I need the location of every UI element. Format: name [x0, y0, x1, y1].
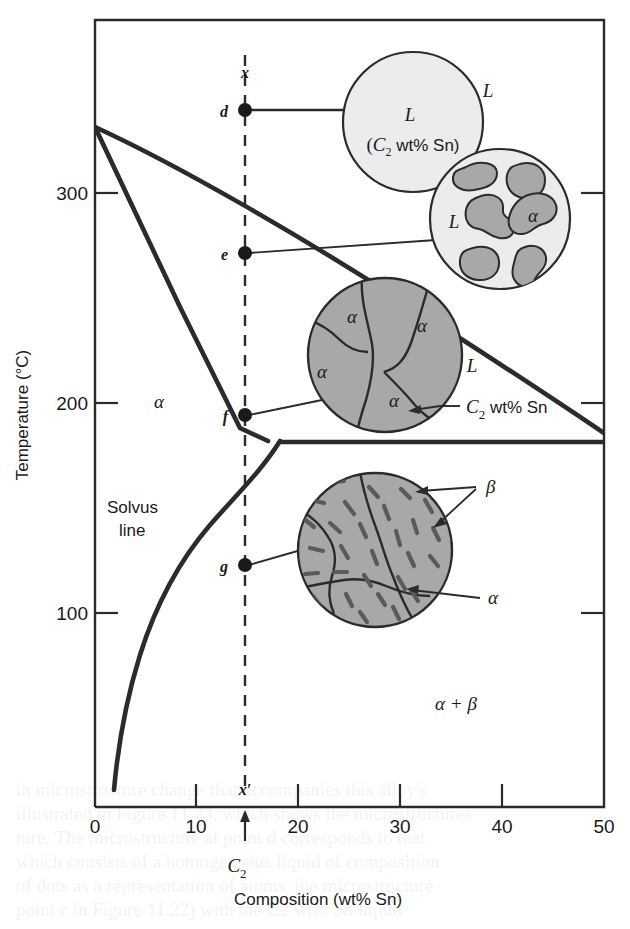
liq-comp-close: ): [454, 136, 460, 155]
alpha-grains-micrograph: α α α α: [303, 276, 462, 440]
y-tick-label-200: 200: [56, 393, 88, 414]
la-micrograph-label-L: L: [448, 211, 460, 232]
phase-diagram-svg: in microstructure change that accompanie…: [0, 0, 630, 929]
region-label-alpha: α: [154, 391, 165, 412]
state-point-e-dot: [238, 246, 252, 260]
x-tick-label-20: 20: [287, 816, 308, 837]
la-micrograph-label-alpha: α: [528, 205, 539, 226]
bleed-line-3: ture. The microstructure at point d corr…: [16, 827, 426, 848]
alpha-micrograph-label-3: α: [317, 361, 328, 382]
state-point-d-label: d: [220, 103, 229, 120]
liq-comp-C: C: [373, 134, 386, 155]
y-axis-tick-labels: 300 200 100: [56, 183, 88, 624]
alpha-plus-beta-micrograph: [298, 472, 452, 627]
c2-callout-tail: wt% Sn: [485, 398, 547, 417]
x-tick-label-0: 0: [90, 816, 101, 837]
c2-callout-text: C2 wt% Sn: [466, 396, 548, 422]
vertical-line-bottom-label: x′: [238, 781, 252, 798]
c2-callout-C: C: [466, 396, 479, 417]
c2-label-sub: 2: [240, 866, 247, 881]
alpha-callout-label: α: [488, 587, 499, 608]
state-point-g-dot: [238, 558, 252, 572]
leader-line-f: [249, 400, 322, 415]
x-tick-label-50: 50: [593, 816, 614, 837]
vertical-line-top-label: x: [240, 64, 249, 81]
solvus-curve: [114, 441, 280, 790]
x-tick-label-40: 40: [491, 816, 512, 837]
region-label-alpha-plus-beta: α + β: [435, 693, 477, 714]
y-tick-label-300: 300: [56, 183, 88, 204]
liquid-plus-alpha-micrograph: L α: [430, 149, 570, 289]
solidus-curve: [95, 127, 268, 441]
y-axis-title: Temperature (°C): [13, 350, 32, 481]
phase-diagram-figure: in microstructure change that accompanie…: [0, 0, 630, 929]
alpha-micrograph-label-2: α: [417, 315, 428, 336]
x-tick-label-30: 30: [389, 816, 410, 837]
state-point-d-dot: [238, 103, 252, 117]
y-tick-label-100: 100: [56, 603, 88, 624]
solvus-label-line1: Solvus: [107, 498, 158, 517]
liq-comp-tail: wt% Sn: [391, 136, 453, 155]
liquid-micrograph-label-L: L: [404, 104, 416, 125]
region-label-liquid: L: [482, 80, 494, 101]
state-points: d e f g: [219, 103, 252, 576]
alpha-micrograph-label-4: α: [389, 390, 400, 411]
solvus-label-line2: line: [119, 521, 145, 540]
state-point-e-label: e: [221, 246, 228, 263]
beta-callout-label: β: [485, 476, 496, 497]
alpha-micrograph-label-1: α: [347, 306, 358, 327]
state-point-f-dot: [238, 408, 252, 422]
state-point-g-label: g: [219, 558, 228, 576]
state-point-f-label: f: [223, 408, 230, 426]
leader-line-e: [249, 240, 436, 253]
x-axis-title: Composition (wt% Sn): [234, 890, 402, 909]
c2-label-main: C: [227, 855, 240, 876]
bleed-line-1: in microstructure change that accompanie…: [16, 779, 427, 800]
x-tick-label-10: 10: [185, 816, 206, 837]
